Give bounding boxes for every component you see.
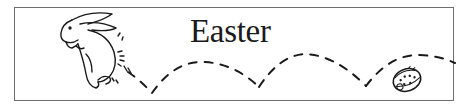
rabbit-icon <box>61 13 131 88</box>
easter-egg-icon <box>390 64 424 95</box>
banner-artwork <box>0 0 470 110</box>
